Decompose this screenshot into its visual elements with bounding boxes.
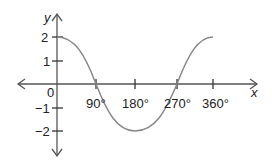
x-tick-180: 180° [122,96,149,111]
y-tick-1: 1 [43,54,50,69]
x-axis-label: x [250,85,258,100]
x-tick-90: 90° [86,96,106,111]
x-tick-270: 270° [164,96,191,111]
cosine-graph: y x 0 90° 180° 270° 360° 2 1 −1 −2 [0,0,272,166]
y-tick-neg2: −2 [35,124,50,139]
y-tick-2: 2 [41,30,48,45]
chart: y x 0 90° 180° 270° 360° 2 1 −1 −2 [0,0,272,166]
y-axis-label: y [43,10,52,25]
x-tick-360: 360° [202,96,229,111]
y-tick-neg1: −1 [35,101,50,116]
origin-label: 0 [47,85,54,100]
